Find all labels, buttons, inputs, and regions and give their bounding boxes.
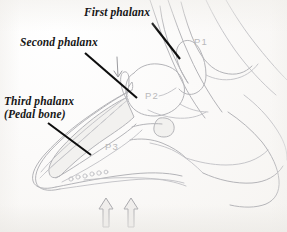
label-third-phalanx-line2: (Pedal bone)	[4, 108, 74, 121]
digital-cushion-contour	[130, 124, 268, 173]
skin-contour-group	[150, 0, 287, 118]
label-third-phalanx-line1: Third phalanx	[4, 95, 74, 108]
first-phalanx-outline	[160, 2, 258, 94]
label-first-phalanx: First phalanx	[84, 6, 150, 19]
down-arrow-icon	[114, 57, 122, 77]
label-second-phalanx: Second phalanx	[20, 36, 98, 49]
leader-line-second-phalanx	[85, 53, 137, 98]
heel-bulb-outline	[203, 95, 287, 207]
second-phalanx-outline	[126, 64, 208, 118]
hoof-anatomy-figure: .ln{fill:none;stroke:#b4b4b8;stroke-widt…	[0, 0, 287, 232]
leader-line-first-phalanx	[152, 23, 180, 59]
navicular-bone-outline	[154, 118, 174, 137]
label-third-phalanx: Third phalanx (Pedal bone)	[4, 95, 74, 121]
up-arrow-icon-left	[99, 198, 113, 227]
bone-code-p3: P3	[105, 141, 119, 152]
bone-code-p2: P2	[145, 90, 159, 101]
up-arrow-icon-right	[124, 198, 138, 227]
bone-code-p1: P1	[194, 36, 208, 47]
